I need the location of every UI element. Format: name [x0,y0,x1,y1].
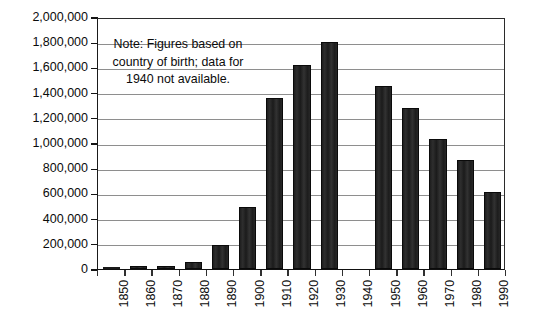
y-axis-tick-label: 200,000 [0,237,88,251]
bar-1860 [130,266,147,269]
y-axis-tick-label: 0 [0,262,88,276]
bar-1850 [103,267,120,269]
bar-1870 [157,266,174,269]
x-axis-tick-label-1960: 1960 [416,280,430,307]
x-axis-tick-label-1920: 1920 [307,280,321,307]
bar-1930 [321,42,338,269]
bar-chart-figure: 0200,000400,000600,000800,0001,000,0001,… [0,0,536,333]
x-axis-tick-mark [423,270,424,276]
x-axis-tick-label-1900: 1900 [253,280,267,307]
bar-1970 [429,139,446,269]
y-axis-tick-label: 1,600,000 [0,60,88,74]
x-axis-tick-mark [124,270,125,276]
x-axis-tick-mark [369,270,370,276]
x-axis-tick-label-1910: 1910 [280,280,294,307]
x-axis-tick-label-1880: 1880 [198,280,212,307]
chart-note-line-3: 1940 not available. [104,71,252,89]
y-axis-tick-label: 600,000 [0,186,88,200]
x-axis-tick-label-1850: 1850 [117,280,131,307]
bar-1880 [185,262,202,269]
x-axis-tick-label-1970: 1970 [443,280,457,307]
x-axis-tick-label-1890: 1890 [225,280,239,307]
y-axis-tick-label: 800,000 [0,161,88,175]
bar-1980 [457,160,474,269]
x-axis-tick-label-1980: 1980 [470,280,484,307]
chart-note-line-2: country of birth; data for [104,54,252,72]
bar-1960 [402,108,419,269]
x-axis-tick-label-1860: 1860 [144,280,158,307]
x-axis-tick-mark [505,270,506,276]
bar-1950 [375,86,392,269]
bar-1890 [212,245,229,269]
x-axis-tick-mark [151,270,152,276]
bar-1900 [239,207,256,269]
x-axis-tick-mark [179,270,180,276]
y-axis-tick-label: 1,400,000 [0,86,88,100]
x-axis-tick-mark [396,270,397,276]
chart-note-annotation: Note: Figures based oncountry of birth; … [104,36,252,89]
x-axis-tick-label-1990: 1990 [497,280,511,307]
chart-note-line-1: Note: Figures based on [104,36,252,54]
x-axis-tick-mark [206,270,207,276]
x-axis-tick-mark [287,270,288,276]
x-axis-tick-label-1950: 1950 [389,280,403,307]
x-axis-tick-label-1870: 1870 [171,280,185,307]
x-axis-tick-mark [260,270,261,276]
bar-1910 [266,98,283,269]
x-axis-tick-mark [97,270,98,276]
y-axis-tick-label: 1,200,000 [0,111,88,125]
x-axis-tick-mark [342,270,343,276]
x-axis-tick-mark [315,270,316,276]
y-axis-tick-label: 1,800,000 [0,35,88,49]
x-axis-tick-mark [478,270,479,276]
y-axis-tick-label: 2,000,000 [0,10,88,24]
x-axis-tick-mark [451,270,452,276]
y-axis-tick-label: 400,000 [0,212,88,226]
y-axis-tick-label: 1,000,000 [0,136,88,150]
bar-1920 [293,65,310,269]
x-axis-tick-label-1930: 1930 [334,280,348,307]
bar-1990 [484,192,501,269]
x-axis-tick-mark [233,270,234,276]
x-axis-tick-label-1940: 1940 [361,280,375,307]
